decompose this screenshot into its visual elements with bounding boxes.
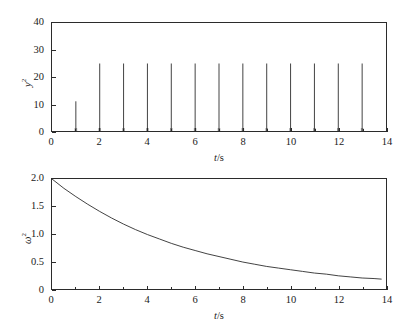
x-minor-tick-bottom-3 xyxy=(219,287,220,290)
x-minor-tick-bottom-6 xyxy=(363,287,364,290)
y-axis-exponent-bottom: 2 xyxy=(20,233,28,237)
x-minor-tick-bottom-2 xyxy=(171,287,172,290)
y-tick-label-bottom-3: 1.5 xyxy=(0,201,44,212)
x-tick-top-7 xyxy=(387,128,388,132)
x-tick-label-top-0: 0 xyxy=(48,137,53,148)
x-tick-top-1 xyxy=(99,128,100,132)
figure-panel-top: 010203040 02468101214 y2 t/s xyxy=(0,0,410,160)
y-tick-label-top-4: 40 xyxy=(0,17,44,28)
y-tick-label-top-1: 10 xyxy=(0,99,44,110)
plot-area-bottom xyxy=(51,178,387,290)
x-tick-bottom-2 xyxy=(147,286,148,290)
x-tick-label-bottom-0: 0 xyxy=(48,295,53,306)
y-tick-label-top-0: 0 xyxy=(0,127,44,138)
x-tick-top-2 xyxy=(147,128,148,132)
y-tick-top-1 xyxy=(52,105,56,106)
x-minor-tick-bottom-1 xyxy=(123,287,124,290)
x-minor-tick-bottom-0 xyxy=(75,287,76,290)
y-tick-bottom-1 xyxy=(52,262,56,263)
y-tick-label-bottom-0: 0 xyxy=(0,285,44,296)
x-tick-label-bottom-3: 6 xyxy=(192,295,197,306)
y-tick-top-0 xyxy=(52,132,56,133)
y-tick-top-3 xyxy=(52,50,56,51)
y-axis-title-top: y2 xyxy=(20,79,33,87)
y-tick-top-2 xyxy=(52,77,56,78)
x-tick-label-top-7: 14 xyxy=(382,137,393,148)
x-tick-label-bottom-1: 2 xyxy=(96,295,101,306)
x-tick-top-6 xyxy=(339,128,340,132)
x-tick-bottom-6 xyxy=(339,286,340,290)
x-tick-label-top-1: 2 xyxy=(96,137,101,148)
x-tick-top-4 xyxy=(243,128,244,132)
decay-curve-bottom xyxy=(52,179,386,289)
y-axis-exponent-top: 2 xyxy=(20,79,28,83)
x-tick-bottom-1 xyxy=(99,286,100,290)
x-minor-tick-top-6 xyxy=(363,129,364,132)
plot-area-top xyxy=(51,22,387,132)
x-minor-tick-top-5 xyxy=(315,129,316,132)
figure-panel-bottom: 00.51.01.52.0 02468101214 ω2 t/s xyxy=(0,160,410,323)
x-tick-top-0 xyxy=(51,128,52,132)
x-minor-tick-top-0 xyxy=(75,129,76,132)
x-tick-label-top-6: 12 xyxy=(334,137,345,148)
y-tick-label-bottom-4: 2.0 xyxy=(0,173,44,184)
y-axis-title-bottom: ω2 xyxy=(20,233,33,244)
x-axis-title-bottom: t/s xyxy=(214,310,224,321)
y-tick-bottom-3 xyxy=(52,206,56,207)
x-tick-bottom-3 xyxy=(195,286,196,290)
x-tick-label-bottom-7: 14 xyxy=(382,295,393,306)
x-tick-top-5 xyxy=(291,128,292,132)
x-tick-label-bottom-2: 4 xyxy=(144,295,149,306)
x-tick-top-3 xyxy=(195,128,196,132)
x-tick-bottom-4 xyxy=(243,286,244,290)
x-tick-bottom-0 xyxy=(51,286,52,290)
x-minor-tick-top-1 xyxy=(123,129,124,132)
x-tick-label-top-3: 6 xyxy=(192,137,197,148)
y-tick-bottom-0 xyxy=(52,290,56,291)
impulse-series-top xyxy=(52,23,386,131)
x-tick-label-bottom-4: 8 xyxy=(240,295,245,306)
y-tick-label-top-3: 30 xyxy=(0,44,44,55)
x-tick-label-bottom-5: 10 xyxy=(286,295,297,306)
x-tick-label-top-5: 10 xyxy=(286,137,297,148)
x-minor-tick-top-2 xyxy=(171,129,172,132)
x-tick-label-top-4: 8 xyxy=(240,137,245,148)
x-tick-bottom-5 xyxy=(291,286,292,290)
y-tick-top-4 xyxy=(52,22,56,23)
y-axis-symbol-bottom: ω xyxy=(22,237,33,244)
x-tick-bottom-7 xyxy=(387,286,388,290)
x-axis-unit-bottom: /s xyxy=(217,310,224,321)
x-tick-label-bottom-6: 12 xyxy=(334,295,345,306)
x-minor-tick-top-3 xyxy=(219,129,220,132)
y-tick-label-bottom-1: 0.5 xyxy=(0,257,44,268)
x-minor-tick-bottom-4 xyxy=(267,287,268,290)
x-minor-tick-bottom-5 xyxy=(315,287,316,290)
y-tick-bottom-2 xyxy=(52,234,56,235)
y-tick-bottom-4 xyxy=(52,178,56,179)
x-tick-label-top-2: 4 xyxy=(144,137,149,148)
decay-path xyxy=(52,179,381,279)
x-minor-tick-top-4 xyxy=(267,129,268,132)
y-axis-symbol-top: y xyxy=(22,82,33,87)
